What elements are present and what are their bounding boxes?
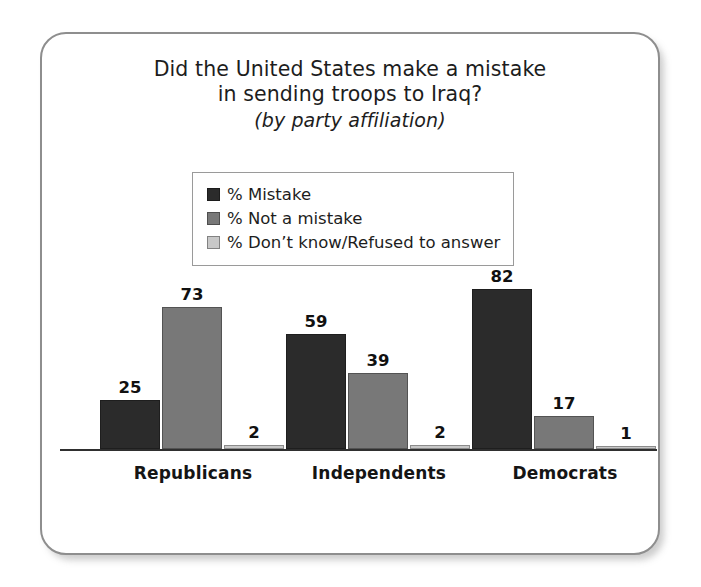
- figure-frame: Did the United States make a mistake in …: [40, 32, 660, 555]
- bar-group-democrats: 82 17 1 Democrats: [472, 234, 658, 449]
- bar-value-independents-mistake: 59: [305, 312, 328, 331]
- bar-group-independents: 59 39 2 Independents: [286, 234, 472, 449]
- bar-value-republicans-dont-know: 2: [248, 423, 259, 442]
- bar-value-democrats-dont-know: 1: [620, 424, 631, 443]
- legend-item-mistake: % Mistake: [207, 182, 499, 206]
- bar-democrats-mistake: 82: [472, 289, 532, 448]
- bar-democrats-dont-know: 1: [596, 446, 656, 449]
- bar-republicans-mistake: 25: [100, 400, 160, 449]
- title-line-2: in sending troops to Iraq?: [42, 82, 658, 107]
- bar-value-democrats-mistake: 82: [491, 267, 514, 286]
- bar-value-independents-dont-know: 2: [434, 423, 445, 442]
- bar-value-independents-not-a-mistake: 39: [367, 351, 390, 370]
- axis-label-independents: Independents: [312, 463, 446, 483]
- bar-value-democrats-not-a-mistake: 17: [553, 394, 576, 413]
- bar-independents-not-a-mistake: 39: [348, 373, 408, 449]
- axis-label-republicans: Republicans: [134, 463, 253, 483]
- bar-value-republicans-mistake: 25: [119, 378, 142, 397]
- chart-title: Did the United States make a mistake in …: [42, 57, 658, 133]
- title-line-1: Did the United States make a mistake: [42, 57, 658, 82]
- bar-independents-mistake: 59: [286, 334, 346, 448]
- legend-swatch-mistake: [207, 188, 220, 201]
- axis-baseline: [60, 449, 657, 452]
- bar-group-republicans: 25 73 2 Republicans: [100, 234, 286, 449]
- plot-area: 25 73 2 Republicans 59 39 2 Independents: [60, 204, 657, 481]
- bar-value-republicans-not-a-mistake: 73: [181, 285, 204, 304]
- bar-republicans-dont-know: 2: [224, 445, 284, 449]
- bar-independents-dont-know: 2: [410, 445, 470, 449]
- axis-label-democrats: Democrats: [512, 463, 617, 483]
- bar-democrats-not-a-mistake: 17: [534, 416, 594, 449]
- legend-label-mistake: % Mistake: [227, 185, 311, 204]
- bar-republicans-not-a-mistake: 73: [162, 307, 222, 449]
- title-subtitle: (by party affiliation): [42, 108, 658, 133]
